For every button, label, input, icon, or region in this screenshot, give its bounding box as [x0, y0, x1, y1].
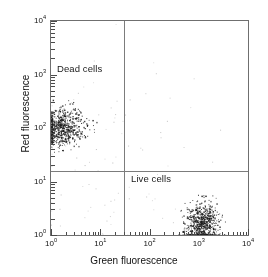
y-tick-minor — [51, 102, 55, 103]
x-tick-minor — [85, 232, 86, 235]
x-tick-minor — [164, 232, 165, 235]
y-tick-minor — [51, 58, 55, 59]
x-tick-minor — [214, 232, 215, 235]
y-tick-label: 104 — [24, 16, 46, 25]
y-tick-minor — [51, 80, 55, 81]
x-tick-label: 102 — [137, 239, 163, 248]
x-tick-minor — [93, 232, 94, 235]
x-axis-title: Green fluorescence — [0, 255, 268, 266]
y-axis-title: Red fluorescence — [20, 34, 31, 194]
y-tick-minor — [51, 49, 55, 50]
quadrant-divider-vertical — [124, 21, 125, 235]
y-tick-minor — [51, 86, 55, 87]
flow-cytometry-scatter-plot: Dead cells Live cells 104103102101100 10… — [0, 0, 268, 277]
x-tick-major — [199, 229, 200, 235]
x-tick-minor — [237, 232, 238, 235]
x-tick-minor — [188, 232, 189, 235]
x-tick-minor — [147, 232, 148, 235]
x-tick-minor — [173, 232, 174, 235]
y-tick-minor — [51, 26, 55, 27]
y-tick-minor — [51, 203, 55, 204]
y-tick-minor — [51, 96, 55, 97]
x-tick-minor — [179, 232, 180, 235]
y-tick-major — [51, 128, 57, 129]
x-tick-label: 101 — [87, 239, 113, 248]
x-tick-minor — [196, 232, 197, 235]
y-tick-minor — [51, 140, 55, 141]
y-tick-major — [51, 235, 57, 236]
x-tick-minor — [142, 232, 143, 235]
y-tick-minor — [51, 112, 55, 113]
y-tick-major — [51, 182, 57, 183]
y-tick-minor — [51, 23, 55, 24]
x-tick-major — [100, 229, 101, 235]
y-tick-minor — [51, 91, 55, 92]
y-tick-minor — [51, 33, 55, 34]
x-tick-minor — [194, 232, 195, 235]
y-tick-major — [51, 21, 57, 22]
x-tick-major — [51, 229, 52, 235]
y-tick-minor — [51, 219, 55, 220]
y-tick-minor — [51, 198, 55, 199]
x-tick-minor — [243, 232, 244, 235]
scatter-points-canvas — [51, 21, 248, 235]
quadrant-label-live-cells: Live cells — [131, 173, 171, 184]
y-tick-minor — [51, 190, 55, 191]
x-tick-minor — [233, 232, 234, 235]
y-tick-minor — [51, 130, 55, 131]
x-tick-minor — [115, 232, 116, 235]
x-tick-minor — [222, 232, 223, 235]
x-tick-minor — [145, 232, 146, 235]
y-tick-minor — [51, 29, 55, 30]
x-tick-minor — [89, 232, 90, 235]
y-tick-minor — [51, 136, 55, 137]
x-tick-minor — [124, 232, 125, 235]
x-tick-minor — [98, 232, 99, 235]
y-tick-minor — [51, 184, 55, 185]
x-tick-label: 103 — [186, 239, 212, 248]
x-tick-minor — [191, 232, 192, 235]
y-tick-minor — [51, 156, 55, 157]
y-tick-minor — [51, 149, 55, 150]
x-tick-minor — [135, 232, 136, 235]
x-tick-minor — [139, 232, 140, 235]
y-tick-label: 100 — [24, 230, 46, 239]
x-tick-minor — [228, 232, 229, 235]
y-tick-minor — [51, 83, 55, 84]
y-tick-minor — [51, 209, 55, 210]
x-tick-label: 100 — [38, 239, 64, 248]
x-tick-minor — [81, 232, 82, 235]
x-tick-minor — [246, 232, 247, 235]
y-tick-minor — [51, 37, 55, 38]
x-tick-minor — [74, 232, 75, 235]
y-tick-minor — [51, 42, 55, 43]
plot-area — [50, 20, 249, 236]
x-tick-label: 104 — [235, 239, 261, 248]
y-tick-minor — [51, 193, 55, 194]
x-tick-minor — [184, 232, 185, 235]
y-tick-minor — [51, 77, 55, 78]
x-tick-major — [248, 229, 249, 235]
y-tick-major — [51, 75, 57, 76]
x-tick-minor — [130, 232, 131, 235]
x-tick-minor — [240, 232, 241, 235]
x-tick-minor — [95, 232, 96, 235]
y-tick-minor — [51, 133, 55, 134]
y-tick-minor — [51, 144, 55, 145]
x-tick-minor — [66, 232, 67, 235]
quadrant-label-dead-cells: Dead cells — [57, 63, 102, 74]
y-tick-minor — [51, 187, 55, 188]
x-tick-major — [150, 229, 151, 235]
quadrant-divider-horizontal — [51, 171, 248, 172]
y-tick-minor — [51, 165, 55, 166]
